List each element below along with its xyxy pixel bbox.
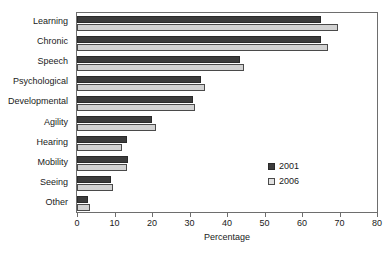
bar-group (77, 116, 377, 131)
bar-group (77, 36, 377, 51)
bar-learning-2001 (77, 16, 321, 23)
bar-seeing-2001 (77, 176, 111, 183)
x-tick-label: 40 (222, 218, 232, 228)
bar-mobility-2006 (77, 164, 127, 171)
x-tick-mark (190, 213, 191, 217)
bar-chronic-2001 (77, 36, 321, 43)
bar-agility-2006 (77, 124, 156, 131)
bar-speech-2006 (77, 64, 244, 71)
y-axis-label-developmental: Developmental (0, 97, 68, 106)
bar-learning-2006 (77, 24, 338, 31)
legend-label: 2006 (279, 177, 299, 186)
x-axis-title: Percentage (76, 232, 378, 243)
x-tick-label: 80 (372, 218, 382, 228)
y-axis-tick-labels: LearningChronicSpeechPsychologicalDevelo… (0, 12, 72, 213)
x-tick-mark (115, 213, 116, 217)
x-axis-ticks: 01020304050607080 (76, 213, 378, 218)
y-axis-label-learning: Learning (0, 17, 68, 26)
chart-legend: 20012006 (268, 160, 338, 190)
bar-developmental-2001 (77, 96, 193, 103)
y-axis-label-hearing: Hearing (0, 138, 68, 147)
bar-seeing-2006 (77, 184, 113, 191)
bar-group (77, 16, 377, 31)
x-tick-label: 0 (74, 218, 79, 228)
x-tick-mark (302, 213, 303, 217)
x-tick-label: 50 (259, 218, 269, 228)
x-tick-label: 70 (334, 218, 344, 228)
bar-group (77, 96, 377, 111)
bar-chronic-2006 (77, 44, 328, 51)
y-axis-label-speech: Speech (0, 57, 68, 66)
x-tick-label: 60 (297, 218, 307, 228)
y-axis-label-seeing: Seeing (0, 178, 68, 187)
bar-other-2006 (77, 204, 90, 211)
bar-psychological-2001 (77, 76, 201, 83)
legend-swatch-icon (268, 163, 275, 170)
legend-item-2001: 2001 (268, 160, 338, 173)
bar-other-2001 (77, 196, 88, 203)
x-tick-label: 30 (184, 218, 194, 228)
y-axis-label-chronic: Chronic (0, 37, 68, 46)
y-axis-label-mobility: Mobility (0, 158, 68, 167)
y-axis-label-other: Other (0, 198, 68, 207)
bar-mobility-2001 (77, 156, 128, 163)
bar-group (77, 136, 377, 151)
legend-swatch-icon (268, 178, 275, 185)
bar-group (77, 76, 377, 91)
bar-developmental-2006 (77, 104, 195, 111)
bar-speech-2001 (77, 56, 240, 63)
x-tick-mark (265, 213, 266, 217)
x-tick-mark (152, 213, 153, 217)
y-axis-label-agility: Agility (0, 118, 68, 127)
x-tick-mark (377, 213, 378, 217)
legend-label: 2001 (279, 162, 299, 171)
x-tick-label: 10 (109, 218, 119, 228)
bar-hearing-2001 (77, 136, 127, 143)
x-tick-label: 20 (147, 218, 157, 228)
bar-group (77, 196, 377, 211)
x-tick-mark (227, 213, 228, 217)
bar-agility-2001 (77, 116, 152, 123)
y-axis-label-psychological: Psychological (0, 77, 68, 86)
bar-chart-figure: LearningChronicSpeechPsychologicalDevelo… (0, 0, 383, 258)
x-tick-mark (77, 213, 78, 217)
x-tick-mark (340, 213, 341, 217)
legend-item-2006: 2006 (268, 175, 338, 188)
bar-group (77, 56, 377, 71)
bar-psychological-2006 (77, 84, 205, 91)
bar-hearing-2006 (77, 144, 122, 151)
